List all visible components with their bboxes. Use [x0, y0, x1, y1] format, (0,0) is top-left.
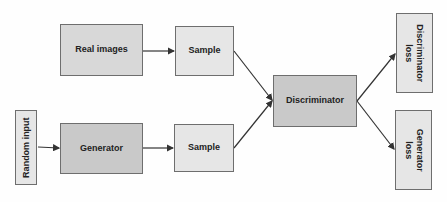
- node-label: Sample: [188, 142, 220, 153]
- node-label: Random input: [20, 117, 31, 178]
- node-sample-fake: Sample: [174, 124, 234, 172]
- node-label: Generator loss: [402, 128, 425, 171]
- node-sample-real: Sample: [175, 26, 234, 76]
- node-label: Real images: [75, 44, 128, 55]
- node-label: Sample: [188, 45, 220, 56]
- edge-random-input-to-generator: [38, 147, 59, 148]
- edge-sample-real-to-discriminator: [234, 51, 272, 100]
- node-label: Discriminator loss: [403, 24, 426, 82]
- edge-discriminator-to-generator-loss: [357, 101, 394, 149]
- edge-sample-fake-to-discriminator: [234, 101, 272, 148]
- node-generator-loss: Generator loss: [395, 110, 432, 190]
- node-discriminator: Discriminator: [273, 75, 357, 127]
- node-discriminator-loss: Discriminator loss: [396, 13, 433, 93]
- node-label: Generator: [80, 143, 123, 154]
- edge-discriminator-to-discriminator-loss: [357, 54, 395, 101]
- node-label: Discriminator: [286, 95, 344, 106]
- node-generator: Generator: [60, 123, 143, 174]
- node-random-input: Random input: [15, 110, 37, 185]
- node-real-images: Real images: [60, 24, 143, 76]
